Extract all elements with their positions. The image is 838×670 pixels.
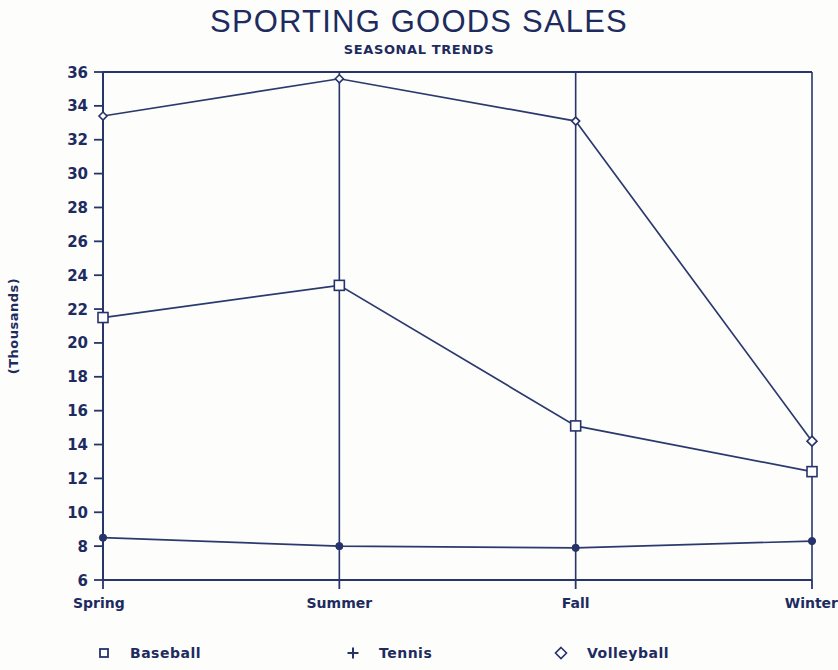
data-point-tennis	[336, 543, 343, 550]
series-line-tennis	[103, 538, 812, 548]
data-point-tennis	[572, 544, 579, 551]
data-point-baseball	[807, 467, 817, 477]
data-point-tennis	[808, 537, 815, 544]
y-tick-label: 34	[67, 97, 88, 115]
x-tick-label: Winter	[785, 595, 838, 611]
y-tick-label: 24	[67, 267, 88, 285]
y-tick-label: 28	[67, 199, 88, 217]
data-point-baseball	[571, 421, 581, 431]
data-point-volleyball	[99, 112, 107, 120]
y-tick-label: 14	[67, 436, 88, 454]
plus-marker-icon	[345, 645, 361, 661]
x-tick-label: Summer	[307, 595, 373, 611]
y-tick-label: 12	[67, 470, 88, 488]
y-tick-label: 10	[67, 504, 88, 522]
y-tick-label: 8	[78, 538, 88, 556]
chart-page: SPORTING GOODS SALES SEASONAL TRENDS (Th…	[0, 0, 838, 670]
y-tick-label: 6	[78, 572, 88, 590]
chart-legend: Baseball Tennis Volleyball	[0, 645, 838, 670]
legend-label-volleyball: Volleyball	[587, 645, 669, 661]
legend-label-baseball: Baseball	[130, 645, 201, 661]
y-tick-label: 18	[67, 368, 88, 386]
y-tick-label: 26	[67, 233, 88, 251]
legend-item-baseball[interactable]: Baseball	[96, 645, 201, 661]
legend-item-volleyball[interactable]: Volleyball	[553, 645, 669, 661]
x-tick-label: Spring	[73, 595, 125, 611]
y-tick-label: 32	[67, 131, 88, 149]
legend-item-tennis[interactable]: Tennis	[345, 645, 432, 661]
series-line-baseball	[103, 285, 812, 471]
y-tick-label: 30	[67, 165, 88, 183]
square-marker-icon	[96, 645, 112, 661]
data-point-baseball	[98, 313, 108, 323]
y-tick-label: 22	[67, 301, 88, 319]
data-point-tennis	[99, 534, 106, 541]
y-tick-label: 16	[67, 402, 88, 420]
data-point-baseball	[334, 280, 344, 290]
line-chart-plot: 681012141618202224262830323436SpringSumm…	[0, 0, 838, 645]
diamond-marker-icon	[553, 645, 569, 661]
series-line-volleyball	[103, 79, 812, 441]
legend-label-tennis: Tennis	[379, 645, 432, 661]
y-tick-label: 20	[67, 334, 88, 352]
data-point-volleyball	[335, 75, 343, 83]
x-tick-label: Fall	[562, 595, 590, 611]
y-tick-label: 36	[67, 64, 88, 82]
